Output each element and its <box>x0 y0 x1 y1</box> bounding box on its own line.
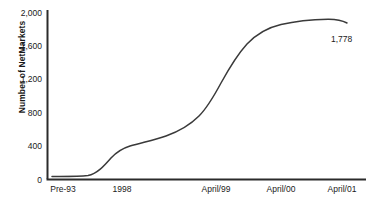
x-tick-label-april-00: April/00 <box>267 184 296 194</box>
plot-area <box>0 0 366 206</box>
x-tick-label-april-99: April/99 <box>202 184 231 194</box>
data-line-netmarkets <box>52 19 347 176</box>
x-tick-label-april-01: April/01 <box>328 184 357 194</box>
data-label-1778: 1,778 <box>331 34 352 44</box>
x-tick-label-1998: 1998 <box>113 184 132 194</box>
chart-figure: Number of NetMarkets 2,000 1,600 1,200 8… <box>0 0 366 206</box>
x-tick-label-pre-93: Pre-93 <box>50 184 76 194</box>
